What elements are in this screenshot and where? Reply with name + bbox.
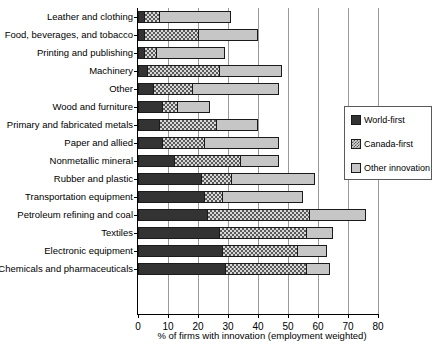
- category-label: Machinery: [89, 62, 133, 80]
- stacked-bar: [138, 65, 282, 77]
- bar-segment-canada: [204, 191, 222, 203]
- x-axis-tick: [348, 314, 349, 318]
- bar-segment-world: [138, 227, 219, 239]
- bar-segment-canada: [201, 173, 231, 185]
- bar-segment-other: [192, 83, 279, 95]
- stacked-bar: [138, 137, 279, 149]
- category-label: Paper and allied: [64, 134, 133, 152]
- chart-root: Leather and clothing Food, beverages, an…: [0, 0, 434, 358]
- stacked-bar: [138, 263, 330, 275]
- bar-segment-canada: [225, 263, 306, 275]
- bar-segment-other: [204, 137, 279, 149]
- x-axis-tick: [168, 314, 169, 318]
- category-label: Nonmetallic mineral: [50, 152, 133, 170]
- category-label: Petroleum refining and coal: [17, 206, 133, 224]
- bar-segment-world: [138, 209, 207, 221]
- bar-segment-world: [138, 263, 225, 275]
- stacked-bar: [138, 173, 315, 185]
- bar-segment-other: [240, 155, 279, 167]
- bar-segment-other: [219, 65, 282, 77]
- x-axis-tick: [288, 314, 289, 318]
- bar-segment-other: [156, 47, 225, 59]
- category-label: Electronic equipment: [44, 242, 133, 260]
- bar-segment-canada: [147, 65, 219, 77]
- bar-segment-canada: [207, 209, 309, 221]
- stacked-bar: [138, 209, 366, 221]
- plot-area: 01020304050607080: [137, 8, 378, 315]
- legend-item-canada-first: Canada-first: [351, 139, 413, 149]
- legend-swatch-other-innovation: [351, 163, 361, 173]
- bar-segment-other: [309, 209, 366, 221]
- stacked-bar: [138, 155, 279, 167]
- bar-segment-other: [306, 263, 330, 275]
- x-axis-tick: [198, 314, 199, 318]
- legend-item-world-first: World-first: [351, 115, 405, 125]
- bar-segment-world: [138, 101, 162, 113]
- legend-label: World-first: [364, 115, 405, 125]
- bar-segment-other: [216, 119, 258, 131]
- legend-swatch-canada-first: [351, 139, 361, 149]
- bar-segment-world: [138, 155, 174, 167]
- stacked-bar: [138, 83, 279, 95]
- category-label: Printing and publishing: [37, 44, 133, 62]
- bar-segment-canada: [144, 29, 198, 41]
- bar-segment-other: [159, 11, 231, 23]
- x-axis-tick: [318, 314, 319, 318]
- category-axis: Leather and clothing Food, beverages, an…: [0, 8, 133, 314]
- x-axis-tick: [258, 314, 259, 318]
- legend: World-first Canada-first Other innovatio…: [344, 106, 432, 180]
- category-label: Primary and fabricated metals: [7, 116, 133, 134]
- bar-segment-other: [306, 227, 333, 239]
- bar-segment-world: [138, 83, 153, 95]
- bar-segment-world: [138, 191, 204, 203]
- bar-segment-canada: [222, 245, 297, 257]
- bar-segment-canada: [153, 83, 192, 95]
- x-axis-tick: [138, 314, 139, 318]
- stacked-bar: [138, 245, 327, 257]
- bar-segment-canada: [162, 101, 177, 113]
- bar-segment-other: [297, 245, 327, 257]
- category-label: Leather and clothing: [47, 8, 133, 26]
- x-axis-tick: [228, 314, 229, 318]
- bar-segment-canada: [162, 137, 204, 149]
- bar-segment-canada: [144, 11, 159, 23]
- bar-segment-other: [222, 191, 303, 203]
- legend-label: Other innovation: [364, 163, 430, 173]
- stacked-bar: [138, 47, 225, 59]
- stacked-bar: [138, 101, 210, 113]
- category-label: Transportation equipment: [25, 188, 133, 206]
- bar-segment-canada: [144, 47, 156, 59]
- stacked-bar: [138, 119, 258, 131]
- bar-segment-canada: [159, 119, 216, 131]
- bar-segment-canada: [219, 227, 306, 239]
- category-label: Textiles: [101, 224, 133, 242]
- legend-swatch-world-first: [351, 115, 361, 125]
- legend-label: Canada-first: [364, 139, 413, 149]
- category-label: Rubber and plastic: [54, 170, 133, 188]
- stacked-bar: [138, 191, 303, 203]
- category-label: Wood and furniture: [52, 98, 133, 116]
- bar-segment-other: [231, 173, 315, 185]
- stacked-bar: [138, 29, 258, 41]
- bar-segment-world: [138, 245, 222, 257]
- category-label: Chemicals and pharmaceuticals: [0, 260, 133, 278]
- x-axis-title: % of firms with innovation (employment w…: [137, 330, 387, 341]
- bar-segment-other: [177, 101, 210, 113]
- legend-item-other-innovation: Other innovation: [351, 163, 430, 173]
- category-label: Other: [109, 80, 133, 98]
- bar-segment-world: [138, 173, 201, 185]
- bar-segment-other: [198, 29, 258, 41]
- stacked-bar: [138, 11, 231, 23]
- bar-segment-world: [138, 137, 162, 149]
- bar-segment-world: [138, 119, 159, 131]
- stacked-bar: [138, 227, 333, 239]
- x-axis-tick: [378, 314, 379, 318]
- category-label: Food, beverages, and tobacco: [5, 26, 133, 44]
- bar-segment-canada: [174, 155, 240, 167]
- bar-segment-world: [138, 65, 147, 77]
